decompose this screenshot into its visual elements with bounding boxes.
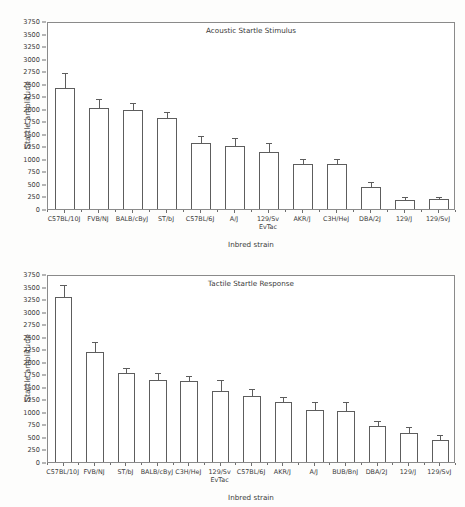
x-axis-tick-label-line: C57BL/10J — [48, 215, 81, 223]
x-axis-tick-label-line: 129/J — [396, 215, 412, 223]
error-bar-cap — [232, 138, 238, 139]
x-axis-tick — [302, 210, 303, 213]
x-axis-tick — [166, 210, 167, 213]
bar — [149, 380, 167, 462]
x-axis-tick — [282, 463, 283, 466]
error-bar-cap — [437, 435, 443, 436]
error-bar-cap — [280, 397, 286, 398]
x-axis-tick-label-line: ST/bJ — [117, 468, 133, 476]
x-axis-tick-label: DBA/2J — [366, 468, 388, 476]
x-axis-tick — [314, 463, 315, 466]
x-axis-acoustic: C57BL/10JFVB/NJBALB/cByJST/bJC57BL/6JA/J… — [47, 210, 455, 244]
bar — [400, 433, 418, 462]
error-bar-cap — [130, 103, 136, 104]
x-axis-tick-label: BUB/BnJ — [332, 468, 358, 476]
y-axis-tick-label: 3000 — [23, 56, 40, 64]
x-axis-tick — [63, 463, 64, 466]
bar — [243, 396, 261, 462]
y-axis-tick-label: 1750 — [23, 371, 40, 379]
error-bar-stem — [167, 113, 168, 118]
x-axis-tick-label-line: FVB/NJ — [87, 215, 108, 223]
y-axis-tick — [42, 287, 46, 288]
x-axis-minor-tick — [183, 210, 184, 212]
error-bar-cap — [123, 368, 129, 369]
x-axis-minor-tick — [329, 463, 330, 465]
x-axis-tick — [157, 463, 158, 466]
y-axis-tick — [42, 147, 46, 148]
x-axis-tick-label-line: 129/J — [400, 468, 416, 476]
y-axis-tick — [42, 210, 46, 211]
y-axis-tick-label: 1000 — [23, 156, 40, 164]
error-bar-stem — [65, 74, 66, 88]
x-axis-tick-label-line: C57BL/10J — [46, 468, 79, 476]
x-axis-tick-label: 129/SvJ — [426, 215, 450, 223]
error-bar-stem — [439, 198, 440, 199]
error-bar-stem — [440, 436, 441, 440]
x-axis-tick — [188, 463, 189, 466]
x-axis-tick-label: 129/J — [396, 215, 412, 223]
x-axis-minor-tick — [387, 210, 388, 212]
y-axis-tick — [42, 22, 46, 23]
y-axis-tick — [42, 122, 46, 123]
error-bar-cap — [155, 373, 161, 374]
x-axis-tactile: C57BL/10JFVB/NJST/bJBALB/cByJC3H/HeJ129/… — [47, 463, 455, 497]
bar — [55, 88, 74, 209]
x-axis-tick — [200, 210, 201, 213]
x-axis-tick — [408, 463, 409, 466]
bar — [369, 426, 387, 462]
x-axis-title-acoustic: Inbred strain — [47, 240, 455, 249]
x-axis-tick — [234, 210, 235, 213]
y-axis-tick-label: 1250 — [23, 396, 40, 404]
bar — [180, 381, 198, 462]
bar — [89, 108, 108, 209]
x-axis-tick-label: 129/SvEvTac — [257, 215, 279, 231]
error-bar-stem — [99, 100, 100, 108]
y-axis-tick — [42, 300, 46, 301]
error-bar-stem — [269, 144, 270, 152]
x-axis-minor-tick — [110, 463, 111, 465]
error-bar-cap — [62, 73, 68, 74]
x-axis-tick — [220, 463, 221, 466]
x-axis-tick-label-line: 129/SvJ — [427, 468, 451, 476]
x-axis-tick-label-line: DBA/2J — [366, 468, 388, 476]
y-axis-tick — [42, 463, 46, 464]
y-axis-tick-label: 1000 — [23, 409, 40, 417]
y-axis-tick-label: 3000 — [23, 309, 40, 317]
y-axis-tick — [42, 34, 46, 35]
error-bar-stem — [337, 160, 338, 164]
y-axis-tick — [42, 159, 46, 160]
error-bar-cap — [406, 427, 412, 428]
x-axis-tick — [251, 463, 252, 466]
x-axis-tick — [125, 463, 126, 466]
x-axis-minor-tick — [267, 463, 268, 465]
bar — [118, 373, 136, 462]
y-axis-tick-label: 1250 — [23, 143, 40, 151]
x-axis-tick-label: AKR/J — [293, 215, 310, 223]
bar — [123, 110, 142, 209]
bar — [225, 146, 244, 209]
y-axis-tick — [42, 412, 46, 413]
error-bar-stem — [409, 428, 410, 434]
y-axis-tick — [42, 350, 46, 351]
y-axis-tick — [42, 325, 46, 326]
error-bar-cap — [92, 342, 98, 343]
x-axis-tick — [439, 463, 440, 466]
x-axis-minor-tick — [251, 210, 252, 212]
x-axis-minor-tick — [81, 210, 82, 212]
bar — [429, 199, 448, 209]
bar — [86, 352, 104, 462]
x-axis-tick-label-line: C3H/HeJ — [323, 215, 349, 223]
x-axis-tick-label-line: ST/bJ — [158, 215, 174, 223]
x-axis-tick-label-line: BALB/cByJ — [141, 468, 173, 476]
x-axis-minor-tick — [141, 463, 142, 465]
x-axis-tick-label: C3H/HeJ — [323, 215, 349, 223]
y-axis-tick — [42, 172, 46, 173]
x-axis-minor-tick — [149, 210, 150, 212]
error-bar-stem — [95, 343, 96, 352]
y-axis-tick-label: 3750 — [23, 18, 40, 26]
x-axis-tick-label-line: A/J — [310, 468, 318, 476]
bars-container-tactile — [48, 276, 454, 462]
x-axis-tick-label: BALB/cByJ — [116, 215, 148, 223]
x-axis-tick-label: A/J — [230, 215, 238, 223]
x-axis-minor-tick — [115, 210, 116, 212]
